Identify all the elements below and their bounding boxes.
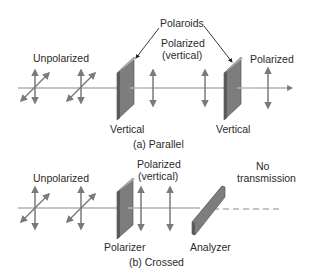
- polarized-label: Polarized: [250, 53, 294, 65]
- panel-b-caption: (b) Crossed: [129, 256, 184, 268]
- polarized-vertical-label: Polarized: [137, 158, 181, 170]
- no-transmission-label: No: [256, 160, 270, 172]
- unpolarized-label: Unpolarized: [33, 172, 89, 184]
- unpolarized-light-icon: [67, 70, 95, 103]
- unpolarized-light-icon: [21, 70, 49, 103]
- polaroid1-label: Vertical: [110, 123, 144, 135]
- polarization-diagram: Unpolarized Polaroids Polarized (vertica…: [0, 0, 310, 279]
- polaroids-pointer: [136, 28, 159, 58]
- polaroids-label: Polaroids: [160, 17, 204, 29]
- polarized-vertical-label: Polarized: [161, 37, 205, 49]
- polaroid2-label: Vertical: [216, 123, 250, 135]
- unpolarized-label: Unpolarized: [33, 52, 89, 64]
- panel-b-crossed: Unpolarized Polarized (vertical) No tran…: [18, 158, 296, 268]
- polarizer-label: Polarizer: [104, 241, 146, 253]
- panel-a-parallel: Unpolarized Polaroids Polarized (vertica…: [18, 17, 294, 150]
- analyzer-label: Analyzer: [190, 241, 231, 253]
- polaroids-pointer: [204, 26, 232, 62]
- polarized-vertical-label: (vertical): [138, 170, 178, 182]
- panel-a-caption: (a) Parallel: [133, 138, 184, 150]
- polarized-vertical-label: (vertical): [162, 49, 202, 61]
- analyzer-plate: [192, 186, 225, 235]
- no-transmission-label: transmission: [237, 172, 296, 184]
